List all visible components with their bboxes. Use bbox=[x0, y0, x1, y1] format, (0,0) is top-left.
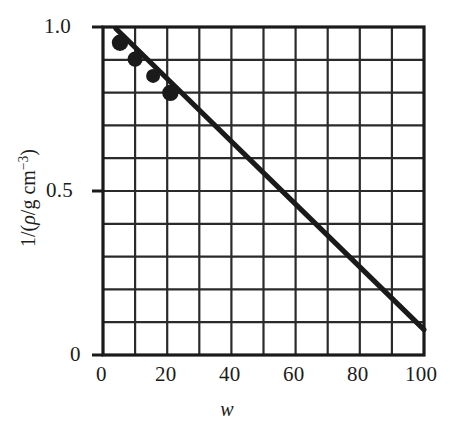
x-axis-label: w bbox=[0, 398, 454, 421]
y-axis-label: 1/(ρ/g cm−3) bbox=[8, 98, 48, 298]
data-point bbox=[162, 85, 178, 101]
x-tick-label-5: 80 bbox=[347, 362, 368, 387]
y-axis-label-suffix: ) bbox=[17, 149, 39, 156]
data-point bbox=[146, 69, 160, 83]
x-tick-label-4: 60 bbox=[283, 362, 304, 387]
chart-figure: 1.0 0.5 0 0 20 40 60 80 100 1/(ρ/g cm−3)… bbox=[0, 0, 454, 439]
data-point bbox=[128, 52, 143, 67]
y-axis-ticks bbox=[92, 27, 103, 355]
y-axis-label-prefix: 1/( bbox=[17, 225, 39, 247]
x-tick-label-2: 20 bbox=[155, 362, 176, 387]
data-point bbox=[112, 35, 128, 51]
x-tick-label-1: 0 bbox=[96, 362, 107, 387]
y-tick-label-2: 0.5 bbox=[46, 178, 73, 203]
x-tick-label-6: 100 bbox=[405, 362, 437, 387]
y-tick-label-1: 1.0 bbox=[44, 14, 71, 39]
x-tick-label-3: 40 bbox=[219, 362, 240, 387]
y-axis-label-mid: /g cm bbox=[17, 170, 39, 215]
y-axis-label-exponent: −3 bbox=[16, 156, 31, 170]
y-tick-label-3: 0 bbox=[70, 342, 81, 367]
y-axis-label-rho: ρ bbox=[17, 215, 39, 225]
